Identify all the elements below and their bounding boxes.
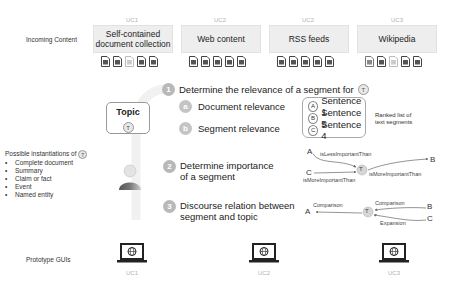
instantiations-block: Possible instantiations of T Complete do…	[5, 150, 115, 199]
document-icon	[125, 56, 134, 67]
document-icon	[137, 56, 146, 67]
discourse-node-b: B	[427, 202, 432, 211]
source-label: RSS feeds	[289, 34, 330, 44]
document-icon	[289, 56, 298, 67]
step-number-badge: 3	[163, 200, 176, 213]
laptop-globe-icon	[117, 243, 147, 265]
document-icon	[189, 56, 198, 67]
edge-label: Comparison	[375, 200, 405, 206]
graph-node-c: C	[306, 168, 312, 177]
substep-b-text: Segment relevance	[198, 123, 280, 134]
document-icons-uc1	[101, 56, 158, 67]
ranked-list-caption: Ranked list of text segments	[375, 112, 412, 126]
step-1-text: Determine the relevance of a segment for	[179, 84, 354, 95]
document-icons-uc2-rss	[277, 56, 334, 67]
document-icon	[149, 56, 158, 67]
source-label: Wikipedia	[379, 34, 416, 44]
substep-a: a Document relevance	[179, 100, 285, 113]
incoming-content-label: Incoming Content	[26, 36, 77, 43]
document-icon	[277, 56, 286, 67]
document-icon	[101, 56, 110, 67]
document-icon	[325, 56, 334, 67]
substep-letter-badge: b	[179, 122, 192, 135]
ranked-list-box: A Sentence 1 B Sentence 5 C Sentence 4	[302, 97, 366, 138]
graph-node-a: A	[307, 147, 312, 156]
step-3-text-line1: Discourse relation between	[180, 200, 295, 211]
substep-b: b Segment relevance	[179, 122, 280, 135]
instantiation-item: Complete document	[5, 159, 115, 167]
topic-box: Topic T	[106, 102, 150, 134]
letter-badge: C	[308, 125, 318, 136]
uc-label-source-2: UC2	[180, 17, 260, 23]
source-label: Web content	[197, 34, 245, 44]
document-icon	[237, 56, 246, 67]
topic-title: Topic	[107, 107, 149, 117]
source-box-web-content: Web content	[181, 25, 261, 53]
prototype-guis-label: Prototype GUIs	[26, 256, 70, 263]
topic-symbol-icon: T	[123, 122, 134, 133]
laptop-globe-icon	[249, 243, 279, 265]
document-icon	[365, 56, 374, 67]
topic-symbol-icon: T	[78, 150, 87, 159]
step-3-text-line2: segment and topic	[180, 211, 295, 222]
source-label-line2: document collection	[95, 39, 170, 49]
instantiation-item: Named entity	[5, 191, 115, 199]
edge-label: isLessImportantThan	[320, 151, 371, 157]
gui-uc-label: UC2	[244, 270, 284, 276]
discourse-node-a: A	[305, 207, 310, 216]
ranked-item-text: Sentence 4	[321, 119, 365, 141]
document-icon	[301, 56, 310, 67]
gui-uc2: UC2	[244, 243, 284, 276]
letter-badge: A	[308, 101, 318, 112]
document-icon	[201, 56, 210, 67]
source-box-rss-feeds: RSS feeds	[269, 25, 349, 53]
edge-label: Comparison	[313, 202, 343, 208]
document-icon	[389, 56, 398, 67]
graph-center-t: T	[359, 166, 363, 172]
document-icon	[413, 56, 422, 67]
source-box-document-collection: Self-contained document collection	[93, 25, 173, 53]
document-icon	[377, 56, 386, 67]
document-icons-uc3	[365, 56, 422, 67]
instantiation-item: Event	[5, 183, 115, 191]
gui-uc-label: UC3	[374, 270, 414, 276]
instantiations-heading: Possible instantiations of	[5, 150, 77, 157]
document-icon	[113, 56, 122, 67]
user-avatar-icon	[117, 163, 143, 191]
letter-badge: B	[308, 113, 318, 124]
instantiations-list: Complete document Summary Claim or fact …	[5, 159, 115, 199]
instantiation-item: Summary	[5, 167, 115, 175]
discourse-node-c: C	[427, 214, 433, 223]
document-icon	[225, 56, 234, 67]
document-icon	[213, 56, 222, 67]
topic-symbol-icon: T	[358, 84, 369, 95]
edge-label: isMoreImportantThan	[369, 171, 421, 177]
gui-uc1: UC1	[112, 243, 152, 276]
step-2: 2 Determine importance of a segment	[163, 160, 273, 182]
substep-a-text: Document relevance	[198, 101, 285, 112]
document-icon	[401, 56, 410, 67]
caption-line1: Ranked list of	[375, 112, 412, 119]
document-icons-uc2-web	[189, 56, 246, 67]
laptop-globe-icon	[379, 243, 409, 265]
instantiation-item: Claim or fact	[5, 175, 115, 183]
graph-node-b: B	[430, 155, 435, 164]
uc-label-source-1: UC1	[92, 17, 172, 23]
edge-label: Expansion	[380, 220, 406, 226]
uc-label-source-4: UC3	[357, 17, 437, 23]
ranked-item: C Sentence 4	[308, 124, 365, 136]
step-2-text-line1: Determine importance	[180, 160, 273, 171]
edge-label: isMoreImportantThan	[303, 177, 355, 183]
step-number-badge: 2	[163, 160, 176, 173]
gui-uc3: UC3	[374, 243, 414, 276]
step-2-text-line2: of a segment	[180, 171, 273, 182]
source-box-wikipedia: Wikipedia	[357, 25, 437, 53]
substep-letter-badge: a	[179, 100, 192, 113]
step-3: 3 Discourse relation between segment and…	[163, 200, 295, 222]
discourse-center-t: T	[365, 208, 369, 214]
document-icon	[313, 56, 322, 67]
step-number-badge: 1	[162, 83, 175, 96]
gui-uc-label: UC1	[112, 270, 152, 276]
source-label-line1: Self-contained	[95, 29, 170, 39]
caption-line2: text segments	[375, 119, 412, 126]
